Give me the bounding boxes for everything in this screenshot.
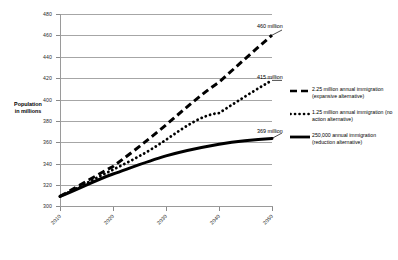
legend-label-expansive: 2.25 million annual immigration (expansi… bbox=[312, 86, 396, 99]
solid-line-marker-icon bbox=[290, 135, 310, 139]
dashed-line-marker-icon bbox=[290, 89, 310, 93]
data-label-369-million: 369 million bbox=[257, 128, 283, 135]
data-label-415-million: 415 million bbox=[257, 74, 283, 81]
series-line-expansive bbox=[60, 35, 272, 196]
legend-item-reduction[interactable]: 250,000 annual immigration (reduction al… bbox=[290, 132, 396, 145]
legend-item-no-action[interactable]: 1.25 million annual immigration (no acti… bbox=[290, 109, 396, 122]
chart-legend: 2.25 million annual immigration (expansi… bbox=[290, 86, 396, 156]
legend-label-reduction: 250,000 annual immigration (reduction al… bbox=[312, 132, 396, 145]
legend-label-no-action: 1.25 million annual immigration (no acti… bbox=[312, 109, 396, 122]
population-projection-chart: Population in millions 480 460 440 420 4… bbox=[0, 0, 398, 260]
leader-line-460 bbox=[272, 30, 282, 35]
legend-item-expansive[interactable]: 2.25 million annual immigration (expansi… bbox=[290, 86, 396, 99]
data-label-460-million: 460 million bbox=[257, 23, 283, 30]
dotted-line-marker-icon bbox=[290, 112, 310, 116]
series-line-reduction bbox=[60, 138, 272, 196]
